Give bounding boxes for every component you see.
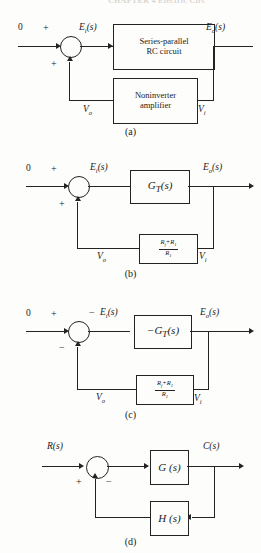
sum-to-forward-line-d	[107, 466, 148, 467]
block-diagram-a: 0 + + Ei(s) Series-parallel RC circuit E…	[0, 0, 261, 148]
feedback-fraction-c-numerator: Rf+R1	[155, 380, 175, 389]
vo-label-c-sub: o	[102, 397, 105, 404]
output-line-a	[213, 46, 253, 47]
sum-sign-topright-c: −	[89, 307, 95, 318]
output-label-a-tail: (s)	[215, 22, 225, 32]
input-label-a: 0	[18, 22, 23, 32]
output-tap-d	[214, 466, 215, 517]
caption-a: (a)	[0, 126, 261, 137]
output-tap-c	[208, 331, 209, 390]
input-line-b	[26, 186, 66, 187]
frac-c-den-sub: 1	[166, 394, 168, 399]
forward-block-a-line2: RC circuit	[146, 46, 181, 56]
summing-junction-a	[60, 36, 82, 58]
feedback-up-line-d	[95, 479, 96, 518]
sum-to-forward-line-c	[88, 331, 130, 332]
feedback-block-a-line1: Noninverter	[135, 90, 176, 100]
sum-sign-bottom-c: −	[59, 342, 65, 353]
feedback-block-b: Rf+R1 R1	[139, 234, 198, 264]
forward-block-a-line1: Series-parallel	[139, 36, 188, 46]
summing-junction-c	[68, 321, 90, 343]
feedback-up-line-c	[77, 347, 78, 390]
feedback-up-line-a	[69, 62, 70, 101]
summing-junction-b	[68, 176, 90, 198]
feedback-fraction-c-denominator: R1	[155, 390, 175, 400]
output-arrowhead-c	[249, 328, 254, 334]
forward-block-a: Series-parallel RC circuit	[113, 24, 215, 70]
forward-arrowhead-d	[144, 463, 149, 469]
vo-label-b-sub: o	[103, 256, 106, 263]
sum-sign-bottom-a: +	[51, 58, 57, 69]
feedback-left-line-a	[70, 100, 113, 101]
vo-label-c: Vo	[96, 392, 105, 404]
feedback-right-line-b	[196, 248, 214, 249]
feedback-arrowhead-a	[67, 56, 73, 61]
feedback-arrowhead-b	[75, 196, 81, 201]
forward-block-c: −GT(s)	[134, 315, 192, 349]
sum-sign-left-a: +	[43, 22, 49, 33]
output-label-b-tail: (s)	[212, 162, 222, 172]
input-line-a	[18, 46, 58, 47]
feedback-left-line-c	[78, 389, 136, 390]
output-line-c	[190, 331, 250, 332]
vi-label-b: Vi	[199, 251, 207, 263]
feedback-left-line-b	[78, 248, 139, 249]
sum-sign-bottom-b: +	[59, 198, 65, 209]
vo-label-b: Vo	[97, 251, 106, 263]
input-label-d: R(s)	[47, 441, 63, 451]
output-arrowhead-d	[239, 463, 244, 469]
vi-label-a: Vi	[198, 104, 206, 116]
feedback-right-line-d	[192, 517, 215, 518]
feedback-arrowhead-c	[75, 341, 81, 346]
output-label-c: Eo(s)	[200, 307, 219, 319]
output-label-a: Eo(s)	[206, 22, 225, 34]
feedback-right-line-a	[196, 100, 214, 101]
vi-label-a-sub: i	[204, 109, 206, 116]
block-diagram-b: 0 + + Ei(s) GT(s) Eo(s) Vi Rf+R1 R1	[0, 148, 261, 290]
figure-page: CHAPTER 4 Electric Circ 0 + + Ei(s) Seri…	[0, 0, 261, 553]
caption-b: (b)	[0, 268, 261, 279]
feedback-left-line-d	[96, 517, 150, 518]
output-line-b	[188, 186, 250, 187]
forward-block-c-tail: (s)	[167, 324, 179, 336]
error-label-c-tail: (s)	[108, 307, 118, 317]
vo-label-a-sub: o	[89, 109, 92, 116]
error-label-c: Ei(s)	[100, 307, 118, 319]
output-tap-a	[213, 46, 214, 100]
feedback-block-d: H (s)	[150, 501, 189, 536]
error-label-b-tail: (s)	[98, 162, 108, 172]
block-diagram-d: R(s) + − G (s) C(s) H (s) (d)	[0, 432, 261, 553]
caption-c: (c)	[0, 409, 261, 420]
input-label-b: 0	[26, 163, 31, 173]
frac-b-num-b-sub: 1	[174, 243, 176, 248]
block-diagram-c: 0 + − − Ei(s) −GT(s) Eo(s) Vi Rf+R1 R1	[0, 290, 261, 432]
feedback-fraction-b-numerator: Rf+R1	[159, 239, 179, 248]
frac-c-num-b-sub: 1	[171, 384, 173, 389]
sum-sign-left-b: +	[51, 163, 57, 174]
input-line-d	[42, 466, 82, 467]
output-label-d: C(s)	[203, 441, 219, 451]
output-label-b: Eo(s)	[203, 162, 222, 174]
feedback-fraction-b-denominator: R1	[159, 249, 179, 259]
feedback-arrowhead-d	[92, 473, 98, 478]
feedback-fraction-b: Rf+R1 R1	[159, 239, 179, 258]
forward-block-b-sym: G	[148, 179, 156, 191]
output-arrowhead-b	[249, 183, 254, 189]
feedback-block-c: Rf+R1 R1	[136, 375, 194, 405]
forward-block-b-tail: (s)	[161, 179, 173, 191]
sum-to-forward-line-b	[88, 186, 130, 187]
caption-d: (d)	[0, 536, 261, 547]
input-label-c: 0	[26, 308, 31, 318]
error-label-b: Ei(s)	[90, 162, 108, 174]
forward-block-b-text: GT(s)	[148, 179, 173, 194]
sum-sign-bottomright-d: −	[106, 476, 112, 487]
error-label-a-tail: (s)	[87, 22, 97, 32]
feedback-up-line-b	[77, 202, 78, 249]
frac-b-den-sub: 1	[169, 253, 171, 258]
input-label-d-tail: (s)	[53, 441, 63, 451]
vi-label-c: Vi	[194, 393, 202, 405]
sum-sign-left-c: +	[51, 308, 57, 319]
input-line-c	[26, 331, 66, 332]
output-tap-b	[213, 186, 214, 248]
forward-block-c-text: −GT(s)	[147, 324, 179, 339]
